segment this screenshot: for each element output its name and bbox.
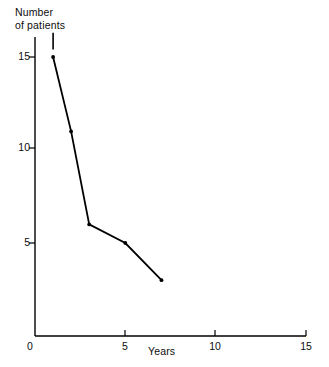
chart-figure: Numberof patients 15 10 5 0 5 10 15 Year… (0, 0, 329, 367)
plot-area (0, 0, 329, 367)
data-line (53, 57, 161, 280)
data-point (87, 223, 91, 227)
data-point (51, 55, 55, 59)
data-point (69, 130, 73, 134)
data-point (123, 241, 127, 245)
data-point (160, 278, 164, 282)
